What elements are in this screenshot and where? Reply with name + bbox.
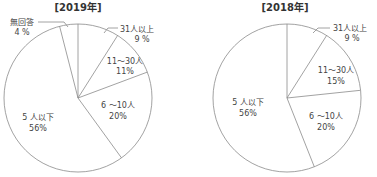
value-no-answer: 4 % <box>14 28 30 37</box>
value-6-10: 20% <box>109 112 127 121</box>
label-5-under: 5 人以下 <box>22 113 54 122</box>
label-6-10: 6 ～10人 <box>101 101 135 110</box>
chart-title-2018: [2018年] <box>262 1 309 13</box>
label-31-plus: 31人以上 <box>120 25 154 34</box>
value-31-plus: 9 % <box>134 35 150 44</box>
value-11-30: 15% <box>327 77 345 86</box>
value-5-under: 56% <box>239 109 257 118</box>
label-11-30: 11～30人 <box>318 66 354 75</box>
label-11-30: 11～30人 <box>107 57 143 66</box>
value-11-30: 11% <box>116 67 134 76</box>
value-31-plus: 9 % <box>344 34 360 43</box>
label-31-plus: 31人以上 <box>333 24 367 33</box>
value-6-10: 20% <box>317 123 335 132</box>
pie-chart-2019 <box>4 22 152 172</box>
pie-charts: [2019年] 31人以上 9 % 11～30人 11% 6 ～10人 20% … <box>0 0 377 177</box>
label-no-answer: 無回答 <box>10 17 34 27</box>
value-5-under: 56% <box>29 124 47 133</box>
label-5-under: 5 人以下 <box>232 98 264 107</box>
label-6-10: 6 ～10人 <box>309 112 343 121</box>
chart-title-2019: [2019年] <box>55 1 102 13</box>
